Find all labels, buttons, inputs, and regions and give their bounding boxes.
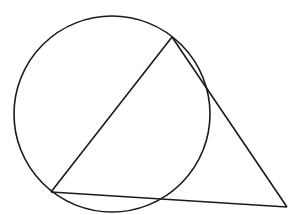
triangle-side-top-to-right (172, 37, 287, 207)
geometry-diagram (0, 0, 300, 215)
triangle-side-top-to-bottom-left (51, 37, 172, 192)
